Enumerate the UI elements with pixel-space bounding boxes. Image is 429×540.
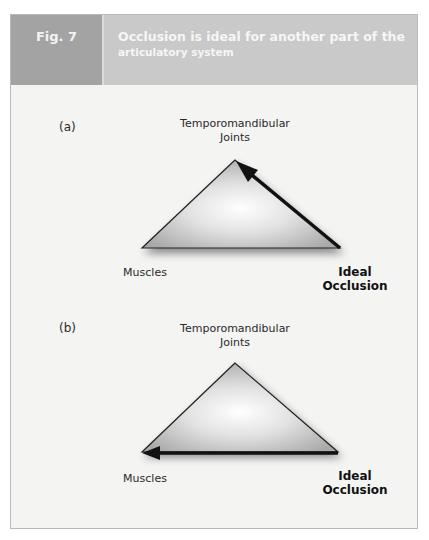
- panel-a-right-node-line2: Occlusion: [320, 279, 390, 293]
- panel-b-right-node: Ideal Occlusion: [320, 469, 390, 497]
- panel-b-top-node-line1: Temporomandibular: [175, 322, 295, 336]
- panel-b-right-node-line2: Occlusion: [320, 483, 390, 497]
- panel-a-top-node-line2: Joints: [175, 131, 295, 145]
- panel-b-label: (b): [59, 321, 76, 335]
- panel-b-right-node-line1: Ideal: [320, 469, 390, 483]
- panel-a-left-node: Muscles: [110, 266, 180, 280]
- panel-a-top-node-line1: Temporomandibular: [175, 117, 295, 131]
- triangle-b: [142, 363, 338, 460]
- panel-b-top-node: Temporomandibular Joints: [175, 322, 295, 350]
- panel-b-left-node: Muscles: [110, 472, 180, 486]
- panel-a-right-node: Ideal Occlusion: [320, 265, 390, 293]
- triangle-a: [142, 160, 340, 248]
- panel-b-top-node-line2: Joints: [175, 336, 295, 350]
- panel-a-top-node: Temporomandibular Joints: [175, 117, 295, 145]
- panel-a-label: (a): [59, 120, 76, 134]
- panel-a-right-node-line1: Ideal: [320, 265, 390, 279]
